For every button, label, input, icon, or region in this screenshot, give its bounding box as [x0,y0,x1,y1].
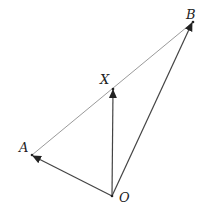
label-o: O [119,191,130,204]
label-a: A [19,141,28,154]
point-o [111,195,114,198]
vector-oa [33,156,112,196]
diagram-svg [0,0,207,214]
vector-diagram: A X B O [0,0,207,214]
vector-ox [112,90,113,196]
label-b: B [186,8,196,21]
point-x [112,88,115,91]
vector-ob [112,23,192,196]
point-a [31,154,34,157]
label-x: X [100,73,109,86]
